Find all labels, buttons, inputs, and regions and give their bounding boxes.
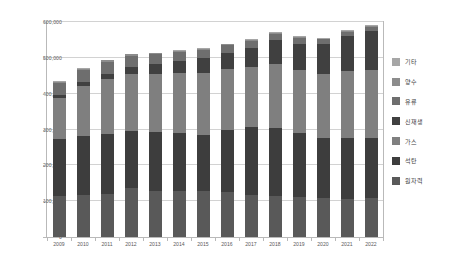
bar-segment-신재생[interactable] <box>125 67 138 74</box>
bar-segment-신재생[interactable] <box>269 40 282 64</box>
bar-column[interactable] <box>215 22 239 237</box>
bar-column[interactable] <box>143 22 167 237</box>
bar-segment-원자력[interactable] <box>77 195 90 237</box>
bar-segment-가스[interactable] <box>53 98 66 139</box>
bar-column[interactable] <box>263 22 287 237</box>
bar-segment-신재생[interactable] <box>173 61 186 73</box>
bar-segment-원자력[interactable] <box>269 196 282 237</box>
bar-segment-원자력[interactable] <box>149 191 162 237</box>
bar-column[interactable] <box>335 22 359 237</box>
bar-segment-석탄[interactable] <box>53 139 66 196</box>
bar-segment-원자력[interactable] <box>101 194 114 237</box>
bar-segment-원자력[interactable] <box>125 188 138 237</box>
bar-column[interactable] <box>47 22 71 237</box>
bar-segment-석탄[interactable] <box>365 138 378 198</box>
stacked-bar[interactable] <box>293 36 306 237</box>
bar-segment-신재생[interactable] <box>293 44 306 70</box>
bar-segment-가스[interactable] <box>101 79 114 134</box>
stacked-bar[interactable] <box>173 50 186 237</box>
bar-segment-석탄[interactable] <box>245 127 258 195</box>
bar-column[interactable] <box>191 22 215 237</box>
bar-segment-원자력[interactable] <box>221 192 234 237</box>
bar-segment-가스[interactable] <box>245 67 258 127</box>
bar-segment-가스[interactable] <box>77 86 90 136</box>
bar-column[interactable] <box>71 22 95 237</box>
bar-segment-신재생[interactable] <box>197 58 210 72</box>
bar-segment-가스[interactable] <box>341 71 354 138</box>
bar-segment-원자력[interactable] <box>365 198 378 237</box>
stacked-bar[interactable] <box>341 30 354 237</box>
legend-item-신재생[interactable]: 신재생 <box>392 111 450 131</box>
legend-item-석탄[interactable]: 석탄 <box>392 151 450 171</box>
x-axis-tick-label: 2018 <box>263 241 287 247</box>
bar-segment-가스[interactable] <box>365 70 378 138</box>
bar-segment-석탄[interactable] <box>197 135 210 191</box>
bar-column[interactable] <box>311 22 335 237</box>
legend-item-기타[interactable]: 기타 <box>392 52 450 72</box>
bar-segment-원자력[interactable] <box>197 191 210 237</box>
bar-segment-석탄[interactable] <box>341 138 354 199</box>
stacked-bar[interactable] <box>53 81 66 237</box>
bar-column[interactable] <box>239 22 263 237</box>
bar-column[interactable] <box>119 22 143 237</box>
legend-item-가스[interactable]: 가스 <box>392 131 450 151</box>
bar-segment-원자력[interactable] <box>317 198 330 237</box>
stacked-bar[interactable] <box>317 38 330 237</box>
bar-segment-가스[interactable] <box>197 73 210 135</box>
x-axis-tick-label: 2021 <box>335 241 359 247</box>
legend-item-양수[interactable]: 양수 <box>392 72 450 92</box>
bar-segment-유류[interactable] <box>125 56 138 67</box>
bar-segment-가스[interactable] <box>293 70 306 133</box>
bar-column[interactable] <box>167 22 191 237</box>
bar-segment-원자력[interactable] <box>293 197 306 237</box>
bar-segment-석탄[interactable] <box>221 130 234 192</box>
stacked-bar[interactable] <box>149 53 162 238</box>
x-axis-tick-mark <box>143 238 144 241</box>
bar-segment-원자력[interactable] <box>341 199 354 237</box>
bar-segment-유류[interactable] <box>53 83 66 96</box>
bar-segment-유류[interactable] <box>197 50 210 59</box>
bar-segment-신재생[interactable] <box>341 36 354 71</box>
bar-segment-원자력[interactable] <box>245 195 258 237</box>
stacked-bar[interactable] <box>125 54 138 237</box>
bar-column[interactable] <box>95 22 119 237</box>
bar-segment-석탄[interactable] <box>293 133 306 197</box>
bar-column[interactable] <box>287 22 311 237</box>
stacked-bar[interactable] <box>221 44 234 237</box>
bar-segment-가스[interactable] <box>317 74 330 138</box>
bar-segment-가스[interactable] <box>221 69 234 129</box>
stacked-bar[interactable] <box>245 39 258 237</box>
bar-segment-가스[interactable] <box>125 74 138 131</box>
bar-segment-신재생[interactable] <box>149 64 162 74</box>
bar-segment-석탄[interactable] <box>77 136 90 195</box>
bar-segment-가스[interactable] <box>149 74 162 132</box>
stacked-bar[interactable] <box>269 32 282 237</box>
bar-segment-신재생[interactable] <box>245 48 258 67</box>
stacked-bar[interactable] <box>365 25 378 237</box>
stacked-bar[interactable] <box>101 60 114 237</box>
bar-segment-석탄[interactable] <box>173 133 186 191</box>
stacked-bar[interactable] <box>197 48 210 237</box>
bar-segment-신재생[interactable] <box>365 31 378 70</box>
bar-segment-가스[interactable] <box>269 64 282 128</box>
bar-segment-유류[interactable] <box>173 52 186 61</box>
bar-segment-원자력[interactable] <box>53 196 66 237</box>
stacked-bar[interactable] <box>77 68 90 237</box>
bar-segment-석탄[interactable] <box>269 128 282 196</box>
bar-segment-가스[interactable] <box>173 73 186 133</box>
bar-segment-석탄[interactable] <box>125 131 138 189</box>
bar-segment-석탄[interactable] <box>101 134 114 194</box>
bar-segment-석탄[interactable] <box>149 132 162 191</box>
bar-segment-유류[interactable] <box>221 45 234 53</box>
bar-segment-유류[interactable] <box>101 62 114 74</box>
bar-segment-석탄[interactable] <box>317 138 330 199</box>
bar-segment-원자력[interactable] <box>173 191 186 237</box>
bar-column[interactable] <box>359 22 383 237</box>
legend-item-유류[interactable]: 유류 <box>392 92 450 112</box>
legend-item-원자력[interactable]: 원자력 <box>392 171 450 191</box>
bar-segment-유류[interactable] <box>245 41 258 48</box>
bar-segment-유류[interactable] <box>149 54 162 64</box>
bar-segment-신재생[interactable] <box>221 53 234 69</box>
bar-segment-유류[interactable] <box>77 70 90 82</box>
bar-segment-신재생[interactable] <box>317 44 330 74</box>
